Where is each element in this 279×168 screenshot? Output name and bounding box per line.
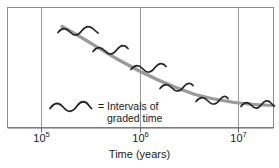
tick-mantissa: 10 — [230, 132, 242, 144]
tick-mantissa: 10 — [132, 132, 144, 144]
figure-container: 105 106 107 Time (years) = Intervals of … — [0, 0, 279, 168]
legend-line-1: = Intervals of — [98, 100, 158, 112]
tick-exponent: 6 — [145, 130, 149, 139]
tick-exponent: 7 — [243, 130, 247, 139]
x-tick-label-1e7: 107 — [230, 132, 246, 144]
tick-mantissa: 10 — [33, 132, 45, 144]
legend-line-2: graded time — [107, 112, 162, 124]
x-tick-label-1e5: 105 — [33, 132, 49, 144]
x-axis-title: Time (years) — [0, 148, 279, 160]
x-tick-label-1e6: 106 — [132, 132, 148, 144]
tick-exponent: 5 — [46, 130, 50, 139]
